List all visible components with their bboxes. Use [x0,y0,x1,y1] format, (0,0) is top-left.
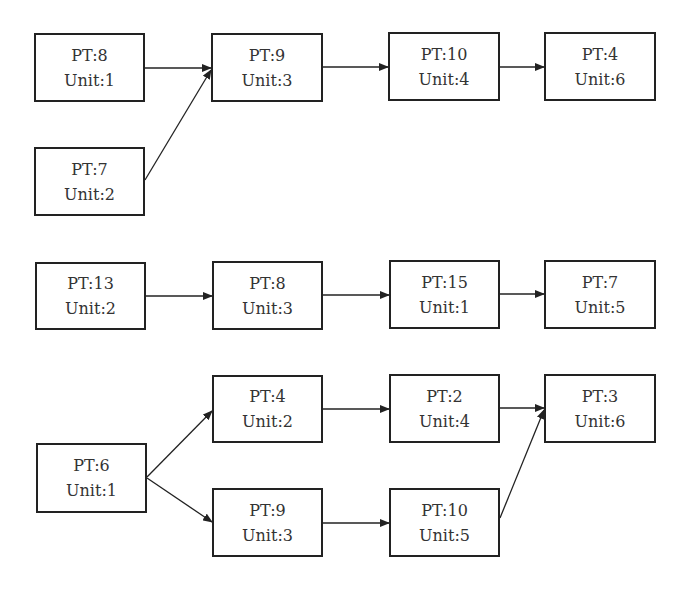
arrow-connector [500,410,544,518]
processing-time-label: PT:10 [421,42,468,67]
unit-label: Unit:3 [242,523,293,548]
unit-label: Unit:3 [242,68,293,93]
processing-time-label: PT:6 [73,453,109,478]
process-node: PT:10Unit:5 [389,488,500,557]
unit-label: Unit:3 [242,296,293,321]
process-node: PT:15Unit:1 [389,260,500,329]
unit-label: Unit:4 [419,409,470,434]
processing-time-label: PT:4 [582,42,618,67]
arrow-connector [147,411,212,477]
processing-time-label: PT:3 [582,384,618,409]
processing-time-label: PT:15 [421,270,468,295]
process-node: PT:13Unit:2 [35,262,146,330]
processing-time-label: PT:7 [71,157,107,182]
unit-label: Unit:5 [575,295,626,320]
process-node: PT:3Unit:6 [544,374,656,443]
unit-label: Unit:1 [66,478,117,503]
processing-time-label: PT:2 [426,384,462,409]
process-node: PT:9Unit:3 [211,33,323,102]
process-node: PT:7Unit:2 [34,147,145,216]
unit-label: Unit:6 [575,67,626,92]
processing-time-label: PT:9 [249,498,285,523]
process-node: PT:7Unit:5 [544,260,656,329]
processing-time-label: PT:13 [67,271,114,296]
process-node: PT:6Unit:1 [36,443,147,513]
unit-label: Unit:1 [419,295,470,320]
processing-time-label: PT:8 [71,43,107,68]
unit-label: Unit:2 [64,182,115,207]
process-node: PT:8Unit:3 [212,261,323,330]
arrow-connector [147,478,212,522]
process-node: PT:4Unit:2 [212,375,323,443]
processing-time-label: PT:8 [249,271,285,296]
process-node: PT:2Unit:4 [389,374,500,443]
process-node: PT:9Unit:3 [212,488,323,557]
processing-time-label: PT:7 [582,270,618,295]
processing-time-label: PT:10 [421,498,468,523]
unit-label: Unit:2 [242,409,293,434]
processing-time-label: PT:9 [249,43,285,68]
unit-label: Unit:5 [419,523,470,548]
processing-time-label: PT:4 [249,384,285,409]
arrow-connector [145,70,211,180]
process-node: PT:8Unit:1 [34,33,145,102]
unit-label: Unit:1 [64,68,115,93]
unit-label: Unit:6 [575,409,626,434]
process-node: PT:4Unit:6 [544,32,656,101]
unit-label: Unit:2 [65,296,116,321]
process-node: PT:10Unit:4 [388,32,500,101]
unit-label: Unit:4 [419,67,470,92]
